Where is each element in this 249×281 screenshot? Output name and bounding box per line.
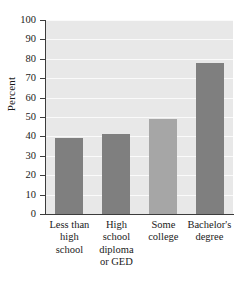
y-axis-tick: [40, 98, 45, 99]
y-axis-tick-label: 20: [14, 170, 36, 180]
y-axis-tick-label: 60: [14, 93, 36, 103]
y-axis-tick-label: 80: [14, 54, 36, 64]
y-axis-tick-label: 70: [14, 73, 36, 83]
y-axis-tick: [40, 59, 45, 60]
y-axis-tick-label: 30: [14, 151, 36, 161]
x-axis-category-line: Bachelor's: [181, 219, 238, 231]
y-axis-tick: [40, 117, 45, 118]
y-axis-tick: [40, 39, 45, 40]
y-axis-tick-label: 10: [14, 190, 36, 200]
x-axis-category-line: diploma: [88, 244, 145, 256]
y-axis-tick-label: 90: [14, 34, 36, 44]
bar: [55, 138, 83, 214]
y-axis-tick-label: 0: [14, 209, 36, 219]
x-axis-category-label: Bachelor'sdegree: [181, 219, 238, 244]
y-axis-tick: [40, 78, 45, 79]
bar-chart-figure: Percent 0102030405060708090100 Less than…: [0, 0, 249, 281]
bar: [149, 119, 177, 214]
y-axis-tick: [40, 195, 45, 196]
y-axis-tick-label: 40: [14, 131, 36, 141]
bar: [196, 63, 224, 214]
y-axis-tick: [40, 214, 45, 215]
y-axis-tick: [40, 20, 45, 21]
y-axis-line: [45, 20, 46, 215]
bar: [102, 134, 130, 214]
y-axis-tick-label: 100: [14, 15, 36, 25]
y-axis-tick: [40, 136, 45, 137]
x-axis-category-line: degree: [181, 231, 238, 243]
x-axis-category-line: or GED: [88, 256, 145, 268]
y-axis-tick-label: 50: [14, 112, 36, 122]
plot-area: [46, 20, 233, 214]
x-axis-line: [45, 214, 234, 215]
bars-group: [46, 20, 233, 214]
y-axis-tick: [40, 156, 45, 157]
y-axis-tick: [40, 175, 45, 176]
